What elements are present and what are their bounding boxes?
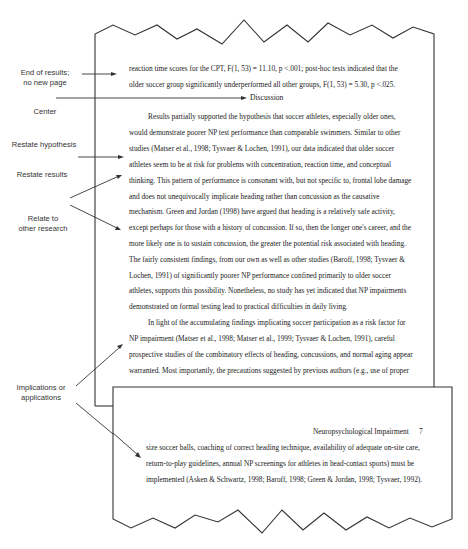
body-line: athletes, supports this possibility. Non…	[129, 286, 406, 296]
annotation-line: Restate results	[4, 170, 80, 180]
body-line: thinking. This pattern of performance is…	[129, 176, 411, 186]
annotation-line: End of results;	[10, 68, 80, 78]
body-line: Results partially supported the hypothes…	[148, 112, 396, 122]
annotation-line: other research	[8, 224, 78, 234]
body-line: athletes seem to be at risk for problems…	[129, 160, 391, 170]
body-line: mechanism. Green and Jordan (1998) have …	[129, 207, 395, 217]
body-line: warranted. Most importantly, the precaut…	[129, 366, 409, 376]
annotation-restate-results: Restate results	[4, 170, 80, 180]
annotation-restate-hypothesis: Restate hypothesis	[4, 140, 84, 150]
body-line: and does not unequivocally implicate hea…	[129, 192, 380, 202]
annotation-line: applications	[6, 393, 76, 403]
annotation-relate-research: Relate to other research	[8, 214, 78, 234]
annotation-end-of-results: End of results; no new page	[10, 68, 80, 88]
body-line: In light of the accumulating findings im…	[148, 318, 406, 328]
results-line: reaction time scores for the CPT, F(1, 5…	[129, 64, 398, 74]
body-line: prospective studies of the combinatory e…	[129, 350, 413, 360]
discussion-heading: Discussion	[250, 93, 283, 102]
annotation-center: Center	[10, 107, 80, 117]
annotation-line: no new page	[10, 78, 80, 88]
running-head: Neuropsychological Impairment	[313, 427, 409, 436]
body-line: The fairly consistent findings, from our…	[129, 255, 405, 265]
annotation-line: Implications or	[6, 383, 76, 393]
annotation-line: Center	[10, 107, 80, 117]
body-line: return-to-play guidelines, annual NP scr…	[146, 459, 414, 469]
annotation-line: Relate to	[8, 214, 78, 224]
body-line: Lochen, 1991) of significantly poorer NP…	[129, 271, 391, 281]
body-line: demonstrated on formal testing lead to p…	[129, 302, 348, 312]
results-line: older soccer group significantly underpe…	[129, 80, 395, 90]
body-line: NP impairment (Matser et al., 1998; Mats…	[129, 334, 395, 344]
body-line: except perhaps for those with a history …	[129, 223, 411, 233]
body-line: studies (Matser et al., 1998; Tysvaer & …	[129, 144, 394, 154]
body-line: would demonstrate poorer NP test perform…	[129, 128, 400, 138]
annotated-apa-discussion-figure: End of results; no new page Center Resta…	[0, 0, 468, 549]
annotation-implications: Implications or applications	[6, 383, 76, 403]
body-line: implemented (Asken & Schwartz, 1998; Bar…	[146, 475, 422, 485]
body-line: size soccer balls, coaching of correct h…	[146, 443, 420, 453]
body-line: more likely one is to sustain concussion…	[129, 239, 406, 249]
page-number: 7	[419, 427, 423, 436]
annotation-line: Restate hypothesis	[4, 140, 84, 150]
